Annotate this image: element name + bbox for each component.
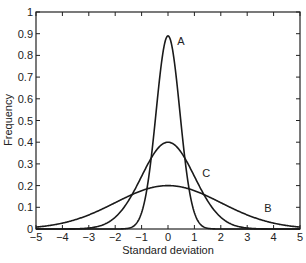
curve-label-a: A <box>177 35 185 47</box>
y-tick-label: 0.8 <box>18 49 33 61</box>
y-axis-label: Frequency <box>2 94 14 146</box>
plot-frame <box>36 12 300 229</box>
x-tick-label: −3 <box>83 231 96 243</box>
x-tick-label: 3 <box>244 231 250 243</box>
x-tick-label: 1 <box>191 231 197 243</box>
normal-distribution-chart: −5−4−3−2−101234500.10.20.30.40.50.60.70.… <box>0 0 306 263</box>
y-tick-label: 1 <box>27 6 33 18</box>
y-tick-label: 0.3 <box>18 158 33 170</box>
curve-label-b: B <box>264 202 271 214</box>
y-tick-label: 0.7 <box>18 71 33 83</box>
y-tick-label: 0.5 <box>18 115 33 127</box>
y-tick-label: 0.4 <box>18 136 33 148</box>
y-tick-label: 0.1 <box>18 201 33 213</box>
x-tick-label: 5 <box>297 231 303 243</box>
x-tick-label: −1 <box>135 231 148 243</box>
x-tick-label: −2 <box>109 231 122 243</box>
x-tick-label: 4 <box>271 231 277 243</box>
x-tick-label: 0 <box>165 231 171 243</box>
y-tick-label: 0 <box>27 223 33 235</box>
y-tick-label: 0.9 <box>18 28 33 40</box>
y-tick-label: 0.2 <box>18 180 33 192</box>
curve-b <box>36 186 300 227</box>
curve-a <box>36 36 300 229</box>
y-tick-label: 0.6 <box>18 93 33 105</box>
x-tick-label: −4 <box>56 231 69 243</box>
curve-label-c: C <box>202 167 210 179</box>
x-tick-label: 2 <box>218 231 224 243</box>
x-axis-label: Standard deviation <box>122 244 214 256</box>
